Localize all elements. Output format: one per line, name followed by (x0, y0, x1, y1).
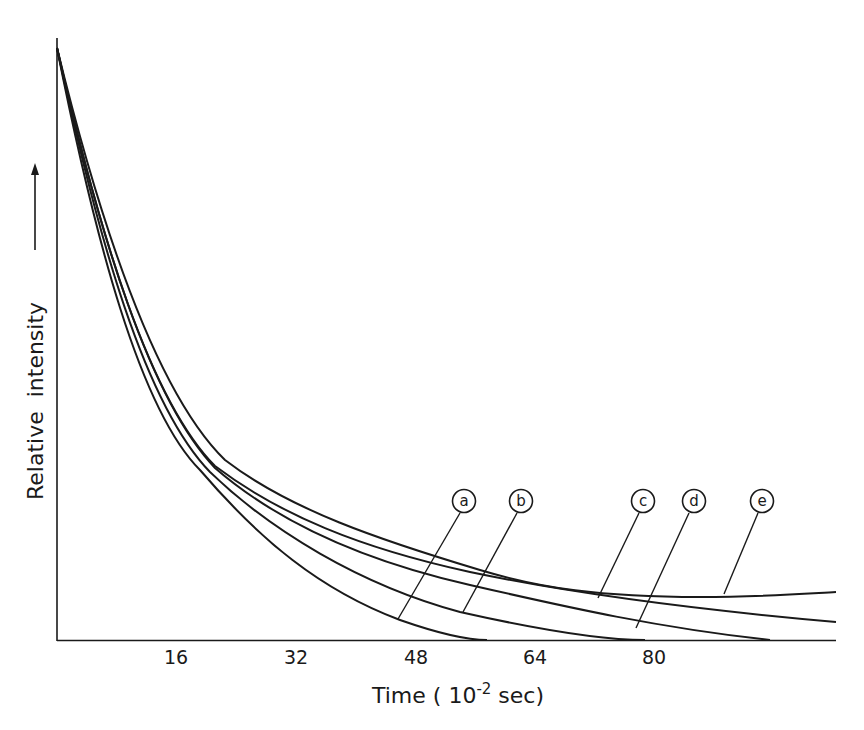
label-c: c (632, 490, 655, 513)
label-d: d (683, 490, 706, 513)
x-axis-label-exponent: -2 (476, 680, 491, 698)
leader-d (636, 513, 689, 628)
y-axis-label: Relative intensity (23, 302, 48, 500)
label-e: e (751, 490, 774, 513)
curve-e (57, 48, 836, 597)
leader-e (724, 513, 758, 594)
svg-text:b: b (516, 492, 526, 510)
decay-chart: Relative intensity 16 32 48 64 80 Time (… (0, 0, 864, 730)
up-arrow-icon (31, 163, 39, 250)
svg-text:c: c (639, 492, 647, 510)
label-a: a (453, 490, 476, 513)
curve-c (57, 48, 770, 640)
label-b: b (510, 490, 533, 513)
x-tick-80: 80 (642, 646, 666, 668)
svg-text:e: e (757, 492, 766, 510)
x-axis-label-main: Time ( 10 (371, 683, 476, 708)
leader-c (598, 513, 639, 598)
x-tick-64: 64 (523, 646, 547, 668)
x-tick-32: 32 (284, 646, 308, 668)
x-axis-label: Time ( 10-2 sec) (371, 680, 544, 708)
leader-b (463, 513, 517, 612)
svg-text:a: a (459, 492, 468, 510)
x-axis-label-unit: sec) (491, 683, 544, 708)
x-tick-48: 48 (404, 646, 428, 668)
x-tick-16: 16 (164, 646, 188, 668)
curve-b (57, 48, 645, 640)
svg-text:d: d (689, 492, 699, 510)
y-axis-label-group: Relative intensity (23, 302, 48, 500)
